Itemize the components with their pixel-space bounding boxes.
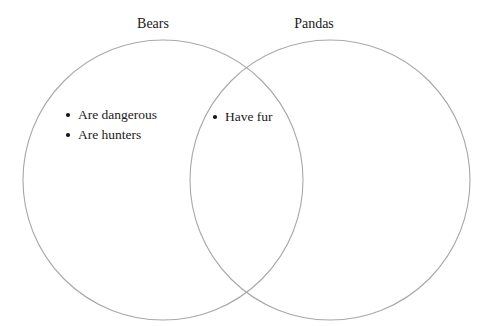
bullet-icon — [213, 115, 217, 119]
list-item-label: Have fur — [225, 109, 273, 124]
list-item: Are hunters — [66, 125, 157, 145]
list-item-label: Are dangerous — [78, 107, 157, 122]
right-set-title: Pandas — [264, 16, 364, 32]
intersection-item-list: Have fur — [213, 107, 273, 127]
left-set-circle[interactable] — [23, 40, 303, 320]
list-item: Have fur — [213, 107, 273, 127]
left-set-title: Bears — [103, 16, 203, 32]
list-item: Are dangerous — [66, 105, 157, 125]
venn-circles-graphic — [0, 0, 495, 326]
bullet-icon — [66, 113, 70, 117]
left-set-item-list: Are dangerous Are hunters — [66, 105, 157, 145]
venn-diagram: Bears Pandas Are dangerous Are hunters H… — [0, 0, 495, 326]
bullet-icon — [66, 133, 70, 137]
list-item-label: Are hunters — [78, 127, 141, 142]
right-set-circle[interactable] — [190, 40, 470, 320]
